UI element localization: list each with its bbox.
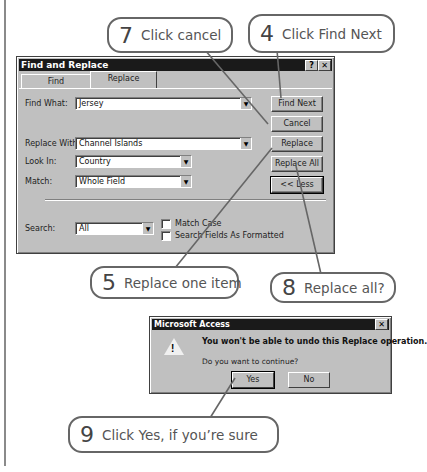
callout-9: 9 Click Yes, if you’re sure [68, 416, 279, 453]
callout-8: 8 Replace all? [270, 272, 396, 303]
callout-number: 5 [102, 270, 116, 295]
callout-text: Replace one item [124, 275, 242, 291]
callout-text: Click Find Next [282, 26, 382, 42]
callout-4: 4 Click Find Next [248, 14, 395, 53]
callout-text: Replace all? [304, 280, 385, 296]
callout-text: Click cancel [141, 27, 221, 43]
callout-number: 8 [282, 275, 296, 300]
callout-number: 9 [80, 422, 94, 447]
callout-number: 4 [260, 21, 274, 46]
callout-text: Click Yes, if you’re sure [102, 427, 258, 443]
callout-7: 7 Click cancel [107, 17, 233, 53]
callout-5: 5 Replace one item [90, 266, 239, 299]
callout-number: 7 [119, 23, 133, 48]
